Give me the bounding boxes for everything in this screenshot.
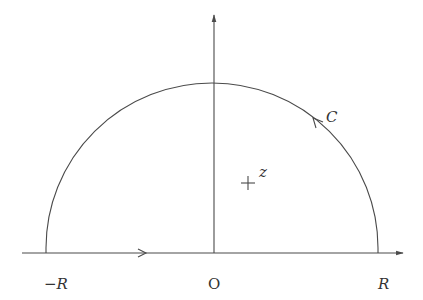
label-origin: O [208,275,220,293]
label-contour: C [326,108,338,126]
point-z-marker [241,176,255,190]
label-point-z: z [258,163,267,181]
label-pos-R: R [377,275,389,293]
contour-diagram: C z −R O R [0,0,423,300]
label-neg-R: −R [44,275,68,293]
arc-direction-arrow-icon [313,118,323,128]
